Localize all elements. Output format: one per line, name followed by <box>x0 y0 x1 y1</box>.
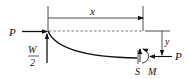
p-right-label: P <box>174 50 182 62</box>
beam-diagram: x P W 2 S M y P <box>0 0 190 79</box>
m-label: M <box>147 66 157 77</box>
s-label: S <box>135 66 140 77</box>
p-left-label: P <box>8 26 16 38</box>
w-denominator-label: 2 <box>30 57 35 68</box>
y-label: y <box>164 36 170 47</box>
moment-arrow <box>142 49 149 63</box>
deflected-beam-curve <box>48 31 137 58</box>
w-label: W <box>28 44 38 55</box>
x-label: x <box>89 5 95 17</box>
